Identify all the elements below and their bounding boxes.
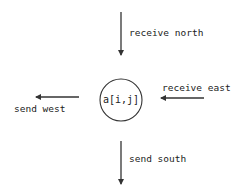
send-south-label: send south: [129, 154, 186, 164]
send-west-label: send west: [14, 104, 65, 114]
node-label: a[i,j]: [103, 95, 139, 105]
receive-east-label: receive east: [162, 83, 231, 93]
receive-north-label: receive north: [129, 28, 203, 38]
